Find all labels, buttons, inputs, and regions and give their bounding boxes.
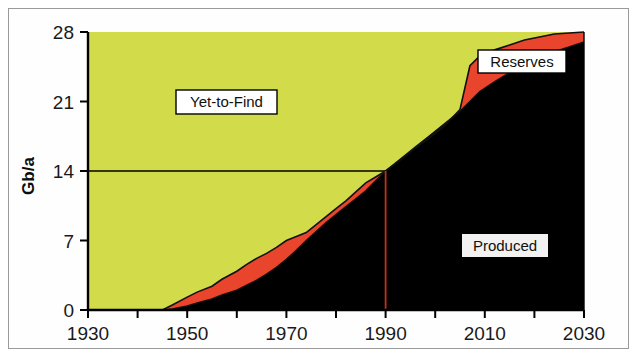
annotation-produced: Produced <box>462 234 548 257</box>
annotation-reserves: Reserves <box>478 50 566 73</box>
x-tick-label-1990: 1990 <box>364 323 406 344</box>
annotation-yet-to-find: Yet-to-Find <box>176 90 277 114</box>
y-tick-label-14: 14 <box>53 161 75 182</box>
annotation-label-produced: Produced <box>473 237 537 254</box>
x-tick-label-2030: 2030 <box>563 323 605 344</box>
x-axis-tick-labels: 1930 1950 1970 1990 2010 2030 <box>67 323 605 344</box>
y-axis-tick-labels: 0 7 14 21 28 <box>53 22 75 321</box>
y-tick-label-0: 0 <box>63 300 74 321</box>
x-axis-ticks <box>88 310 584 318</box>
oil-depletion-area-chart: 0 7 14 21 28 1930 1950 1970 1990 2010 20… <box>0 0 640 360</box>
y-tick-label-28: 28 <box>53 22 74 43</box>
annotation-label-reserves: Reserves <box>490 53 553 70</box>
y-tick-label-21: 21 <box>53 92 74 113</box>
x-tick-label-1930: 1930 <box>67 323 109 344</box>
y-tick-label-7: 7 <box>63 231 74 252</box>
x-tick-label-1950: 1950 <box>166 323 208 344</box>
x-tick-label-2010: 2010 <box>464 323 506 344</box>
chart-svg: 0 7 14 21 28 1930 1950 1970 1990 2010 20… <box>0 0 640 360</box>
x-tick-label-1970: 1970 <box>265 323 307 344</box>
annotation-label-yet-to-find: Yet-to-Find <box>190 93 263 110</box>
y-axis-title: Gb/a <box>19 157 38 195</box>
